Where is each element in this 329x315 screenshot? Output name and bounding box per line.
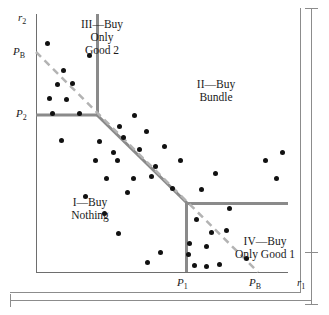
scatter-point — [194, 217, 199, 222]
y-tick-label-p2: P2 — [16, 108, 27, 122]
scatter-point — [70, 81, 75, 86]
scatter-point — [59, 138, 64, 143]
x-tick-p1-text: P — [177, 276, 184, 288]
region-label-ii: II—Buy Bundle — [178, 78, 254, 104]
region-label-iii: III—Buy Only Good 2 — [64, 18, 140, 58]
x-axis-label-sub: 1 — [301, 282, 305, 291]
scatter-point — [115, 158, 120, 163]
scatter-point — [45, 41, 50, 46]
y-tick-p2-text: P — [16, 107, 23, 119]
scatter-point — [263, 158, 268, 163]
y-tick-label-pb: PB — [13, 46, 25, 60]
y-axis-label-sub: 2 — [22, 17, 26, 26]
y-tick-p2-sub: 2 — [23, 113, 27, 122]
scatter-point — [125, 190, 130, 195]
x-tick-p1-sub: 1 — [184, 282, 188, 291]
scatter-point — [217, 262, 222, 267]
scatter-point — [280, 150, 285, 155]
scatter-point — [227, 206, 232, 211]
scatter-point — [224, 228, 229, 233]
scatter-point — [131, 176, 136, 181]
scatter-point — [61, 68, 66, 73]
scatter-point — [187, 241, 192, 246]
x-axis-label: r1 — [297, 277, 305, 291]
scatter-point — [170, 186, 175, 191]
scatter-point — [132, 113, 137, 118]
scatter-point — [204, 264, 209, 269]
region-label-iv: IV—Buy Only Good 1 — [222, 235, 308, 261]
scatter-point — [64, 97, 69, 102]
x-tick-pb-text: P — [249, 276, 256, 288]
scatter-point — [55, 82, 60, 87]
scatter-point — [178, 158, 183, 163]
scatter-point — [149, 174, 154, 179]
scatter-point — [153, 164, 158, 169]
scatter-point — [116, 231, 121, 236]
scatter-point — [204, 244, 209, 249]
scatter-point — [199, 187, 204, 192]
scatter-point — [145, 260, 150, 265]
scatter-point — [111, 150, 116, 155]
scatter-point — [186, 252, 191, 257]
y-tick-pb-text: P — [13, 45, 20, 57]
region-boundary-svg — [0, 0, 329, 315]
scatter-point — [162, 144, 167, 149]
y-axis-label: r2 — [18, 12, 26, 26]
y-tick-pb-sub: B — [20, 51, 25, 60]
scatter-point — [121, 135, 126, 140]
scatter-point — [50, 111, 55, 116]
scatter-point — [144, 129, 149, 134]
scatter-point — [209, 230, 214, 235]
scatter-point — [274, 176, 279, 181]
scatter-point — [104, 176, 109, 181]
x-tick-pb-sub: B — [256, 282, 261, 291]
scatter-point — [213, 171, 218, 176]
scatter-point — [47, 96, 52, 101]
region-label-i: I—Buy Nothing — [52, 196, 128, 222]
scatter-point — [117, 124, 122, 129]
scatter-point — [93, 158, 98, 163]
x-tick-label-p1: P1 — [177, 277, 188, 291]
scatter-point — [77, 111, 82, 116]
scatter-point — [158, 250, 163, 255]
x-tick-label-pb: PB — [249, 277, 261, 291]
scatter-point — [192, 263, 197, 268]
scatter-point — [97, 139, 102, 144]
scatter-point — [137, 147, 142, 152]
